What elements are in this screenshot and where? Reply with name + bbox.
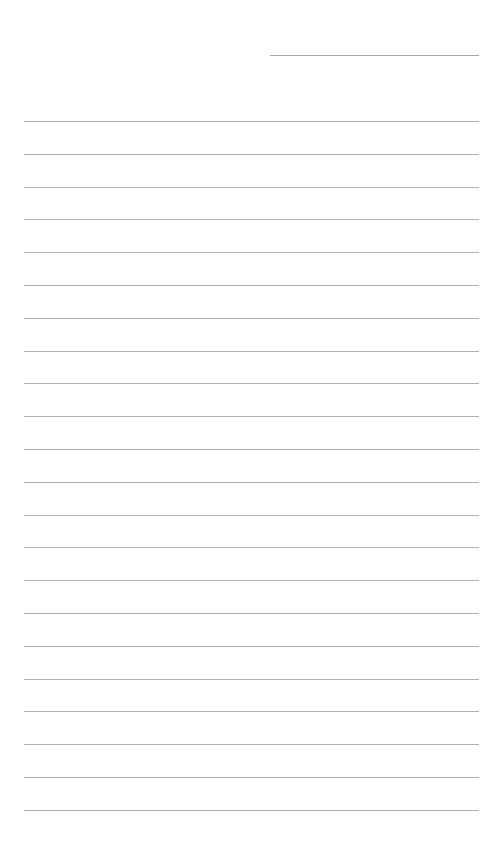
header-name-line (270, 55, 479, 56)
ruled-line (24, 219, 479, 220)
ruled-line (24, 679, 479, 680)
ruled-line (24, 482, 479, 483)
ruled-line (24, 154, 479, 155)
ruled-line (24, 252, 479, 253)
ruled-line (24, 383, 479, 384)
ruled-line (24, 646, 479, 647)
ruled-line (24, 810, 479, 811)
ruled-line (24, 121, 479, 122)
ruled-line (24, 515, 479, 516)
ruled-line (24, 777, 479, 778)
ruled-line (24, 351, 479, 352)
ruled-line (24, 449, 479, 450)
ruled-line (24, 711, 479, 712)
ruled-line (24, 318, 479, 319)
ruled-line (24, 187, 479, 188)
ruled-line (24, 547, 479, 548)
ruled-line (24, 416, 479, 417)
ruled-line (24, 744, 479, 745)
ruled-line (24, 285, 479, 286)
ruled-line (24, 580, 479, 581)
ruled-line (24, 613, 479, 614)
